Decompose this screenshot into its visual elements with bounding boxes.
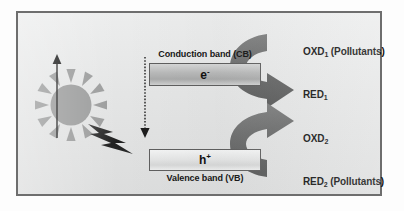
hole-charge: + <box>206 152 211 161</box>
valence-band-box: h+ <box>149 149 261 171</box>
label-red1: RED1 <box>303 89 328 100</box>
label-oxd1-subscript: 1 <box>324 51 328 58</box>
electron-symbol: e- <box>200 68 209 82</box>
electron-charge: - <box>207 67 210 76</box>
label-oxd1: OXD1 (Pollutants) <box>303 46 385 57</box>
label-red2-text: RED <box>303 176 324 187</box>
label-oxd2-text: OXD <box>303 133 324 144</box>
label-oxd1-text: OXD <box>303 46 324 57</box>
hole-symbol: h+ <box>199 153 211 167</box>
label-oxd1-suffix: (Pollutants) <box>328 46 384 57</box>
label-red1-subscript: 1 <box>324 94 328 101</box>
valence-band-caption: Valence band (VB) <box>149 173 261 183</box>
figure-canvas: Conduction band (CB) e- h+ Valence band … <box>0 0 404 211</box>
label-red1-text: RED <box>303 89 324 100</box>
label-oxd2: OXD2 <box>303 133 328 144</box>
conduction-band-box: e- <box>149 63 261 86</box>
label-red2: RED2 (Pollutants) <box>303 176 384 187</box>
conduction-band-caption: Conduction band (CB) <box>149 49 261 59</box>
label-red2-suffix: (Pollutants) <box>328 176 384 187</box>
diagram-panel: Conduction band (CB) e- h+ Valence band … <box>16 11 382 196</box>
lightning-bolt-icon <box>88 124 133 154</box>
label-oxd2-subscript: 2 <box>324 138 328 145</box>
label-red2-subscript: 2 <box>324 181 328 188</box>
